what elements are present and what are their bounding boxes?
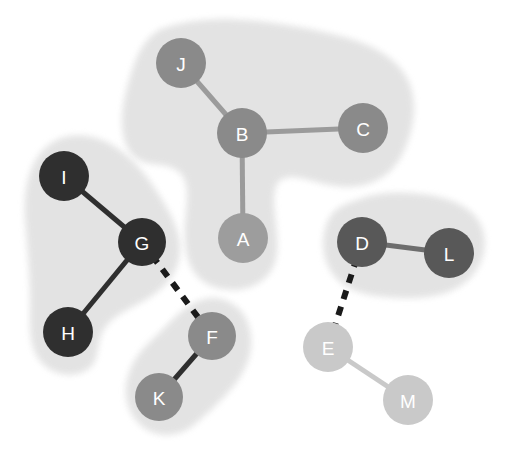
graph-canvas: ABCJIGHFKDLEM	[0, 0, 523, 464]
node-label-A: A	[237, 229, 250, 250]
node-E[interactable]: E	[303, 322, 353, 372]
node-D[interactable]: D	[337, 217, 387, 267]
node-K[interactable]: K	[135, 373, 183, 421]
node-label-L: L	[444, 244, 455, 265]
node-label-G: G	[135, 233, 150, 254]
node-label-F: F	[206, 327, 218, 348]
node-label-K: K	[153, 388, 166, 409]
node-M[interactable]: M	[383, 375, 433, 425]
node-A[interactable]: A	[218, 213, 268, 263]
node-label-J: J	[176, 54, 186, 75]
node-C[interactable]: C	[338, 103, 388, 153]
node-B[interactable]: B	[217, 108, 267, 158]
node-G[interactable]: G	[118, 218, 166, 266]
node-label-I: I	[61, 167, 66, 188]
node-label-M: M	[400, 391, 416, 412]
node-label-H: H	[61, 323, 75, 344]
node-label-D: D	[355, 233, 369, 254]
node-F[interactable]: F	[188, 312, 236, 360]
node-J[interactable]: J	[156, 38, 206, 88]
node-label-B: B	[236, 124, 249, 145]
node-L[interactable]: L	[424, 228, 474, 278]
graph-diagram: ABCJIGHFKDLEM	[0, 0, 523, 464]
node-H[interactable]: H	[43, 307, 93, 357]
node-label-E: E	[322, 338, 335, 359]
node-I[interactable]: I	[39, 151, 89, 201]
node-label-C: C	[356, 119, 370, 140]
